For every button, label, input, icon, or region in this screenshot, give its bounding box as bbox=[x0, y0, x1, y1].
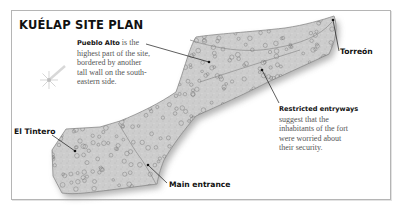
house-ring bbox=[255, 171, 259, 175]
house-ring bbox=[319, 167, 324, 172]
house-ring bbox=[254, 24, 257, 27]
house-ring bbox=[230, 163, 234, 167]
house-ring bbox=[194, 158, 198, 162]
house-ring bbox=[182, 58, 186, 62]
house-ring bbox=[329, 175, 332, 178]
house-ring bbox=[174, 28, 179, 33]
house-ring bbox=[77, 23, 81, 27]
house-ring bbox=[137, 98, 140, 101]
house-ring bbox=[263, 95, 267, 99]
house-ring bbox=[267, 24, 270, 27]
house-ring bbox=[63, 59, 67, 63]
house-ring bbox=[57, 47, 61, 51]
house-ring bbox=[249, 154, 254, 159]
house-ring bbox=[182, 40, 186, 44]
compass-rose-icon bbox=[40, 66, 65, 89]
house-ring bbox=[57, 129, 60, 132]
house-ring bbox=[274, 139, 277, 142]
house-ring bbox=[117, 93, 121, 97]
house-ring bbox=[130, 31, 135, 36]
house-ring bbox=[286, 81, 290, 85]
house-ring bbox=[319, 189, 322, 192]
house-ring bbox=[47, 53, 52, 58]
house-ring bbox=[311, 78, 314, 81]
house-ring bbox=[160, 14, 163, 17]
house-ring bbox=[195, 14, 198, 17]
house-ring bbox=[256, 129, 259, 132]
house-ring bbox=[186, 161, 190, 165]
restricted-entryways-heading: Restricted entryways bbox=[279, 105, 358, 113]
house-ring bbox=[60, 96, 64, 100]
house-ring bbox=[71, 25, 74, 28]
house-ring bbox=[271, 149, 275, 153]
house-ring bbox=[228, 28, 231, 31]
house-ring bbox=[95, 91, 98, 94]
house-ring bbox=[254, 134, 257, 137]
house-ring bbox=[311, 158, 314, 161]
house-ring bbox=[204, 124, 207, 127]
house-ring bbox=[303, 91, 306, 94]
house-ring bbox=[257, 119, 262, 124]
house-ring bbox=[226, 111, 229, 114]
house-ring bbox=[188, 25, 191, 28]
house-ring bbox=[122, 15, 126, 19]
house-ring bbox=[338, 15, 341, 18]
house-ring bbox=[261, 101, 266, 106]
house-ring bbox=[265, 177, 269, 181]
house-ring bbox=[52, 46, 55, 49]
restricted-line: were worried about bbox=[279, 134, 358, 144]
house-ring bbox=[76, 100, 81, 105]
house-ring bbox=[299, 93, 302, 96]
house-ring bbox=[71, 42, 75, 46]
house-ring bbox=[174, 25, 179, 30]
house-ring bbox=[199, 189, 202, 192]
house-ring bbox=[232, 122, 236, 126]
house-ring bbox=[202, 150, 206, 154]
house-ring bbox=[285, 85, 289, 89]
house-ring bbox=[125, 13, 128, 16]
house-ring bbox=[186, 143, 190, 147]
house-ring bbox=[317, 82, 322, 87]
house-ring bbox=[241, 141, 244, 144]
restricted-entryways-annotation: Restricted entryways suggest that the in… bbox=[279, 104, 358, 153]
house-ring bbox=[66, 56, 70, 60]
house-ring bbox=[251, 152, 254, 155]
house-ring bbox=[85, 14, 89, 18]
house-ring bbox=[52, 192, 55, 195]
house-ring bbox=[118, 95, 122, 99]
house-ring bbox=[99, 28, 102, 31]
pueblo-alto-line: is the bbox=[122, 38, 139, 47]
house-ring bbox=[167, 82, 171, 86]
house-ring bbox=[128, 91, 131, 94]
house-ring bbox=[263, 148, 266, 151]
house-ring bbox=[199, 153, 203, 157]
house-ring bbox=[218, 151, 222, 155]
house-ring bbox=[84, 23, 88, 27]
house-ring bbox=[101, 23, 104, 26]
house-ring bbox=[251, 114, 255, 118]
house-ring bbox=[168, 175, 172, 179]
house-ring bbox=[328, 157, 333, 162]
pueblo-alto-line: highest part of the site, bbox=[77, 49, 150, 59]
house-ring bbox=[229, 165, 232, 168]
house-ring bbox=[72, 25, 76, 29]
house-ring bbox=[67, 89, 70, 92]
house-ring bbox=[179, 29, 182, 32]
house-ring bbox=[98, 25, 101, 28]
house-ring bbox=[187, 14, 190, 17]
house-ring bbox=[238, 107, 241, 110]
house-ring bbox=[166, 64, 170, 68]
house-ring bbox=[315, 187, 318, 190]
house-ring bbox=[218, 25, 221, 28]
house-ring bbox=[292, 186, 295, 189]
house-ring bbox=[185, 27, 190, 32]
house-ring bbox=[49, 118, 53, 122]
house-ring bbox=[276, 193, 279, 196]
house-ring bbox=[243, 23, 248, 28]
house-ring bbox=[334, 99, 339, 104]
house-ring bbox=[64, 17, 68, 21]
house-ring bbox=[273, 20, 276, 23]
house-ring bbox=[296, 177, 300, 181]
house-ring bbox=[224, 171, 228, 175]
house-ring bbox=[179, 50, 182, 53]
